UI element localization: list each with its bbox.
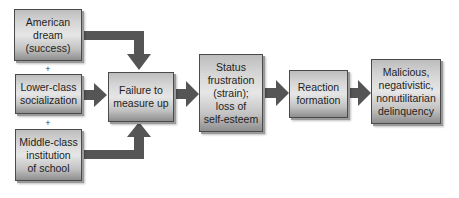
node-status-frustration: Status frustration (strain); loss of sel… [199,54,263,132]
arrow-american-dream-to-failure [83,31,151,70]
node-middle-class-institution: Middle-class institution of school [15,129,82,181]
node-malicious-delinquency: Malicious, negativistic, nonutilitarian … [371,59,441,124]
arrow-lower-class-to-failure [84,83,107,107]
node-american-dream: American dream (success) [14,9,82,61]
arrow-middle-class-to-failure [83,122,151,159]
plus-connector-2: + [43,119,53,128]
arrow-status-to-reaction [264,80,289,106]
plus-connector-1: + [43,65,53,74]
node-failure-to-measure-up: Failure to measure up [108,72,174,122]
arrow-failure-to-status [176,81,199,107]
node-lower-class-socialization: Lower-class socialization [15,74,82,114]
arrow-reaction-to-malicious [349,80,371,106]
node-reaction-formation: Reaction formation [289,70,348,118]
